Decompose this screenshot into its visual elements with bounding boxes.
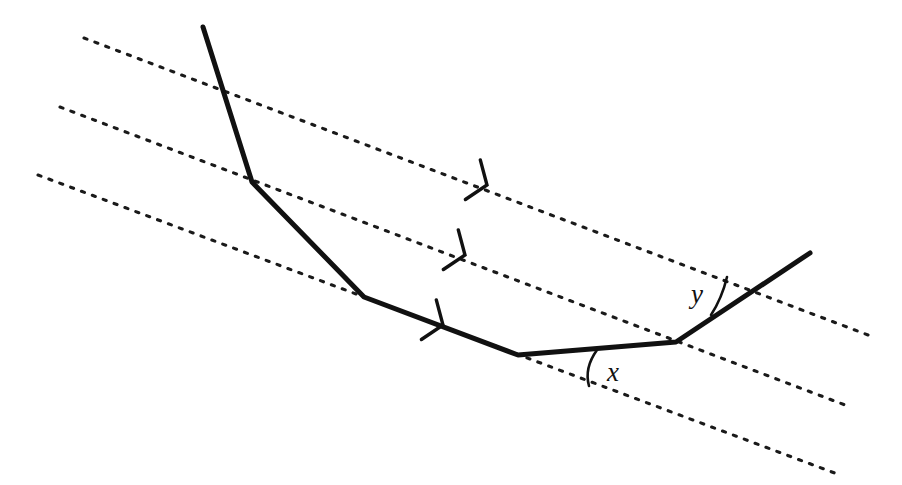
geometry-diagram: x y xyxy=(0,0,902,485)
angle-y-label: y xyxy=(688,279,703,309)
background xyxy=(0,0,902,485)
diagram-canvas: x y xyxy=(0,0,902,485)
angle-x-label: x xyxy=(606,357,619,387)
